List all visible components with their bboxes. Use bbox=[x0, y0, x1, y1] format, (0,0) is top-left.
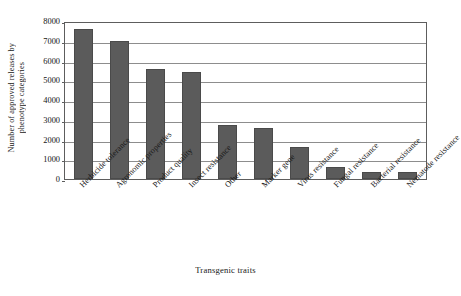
y-axis-title-line-1: Number of approved releases by bbox=[7, 43, 17, 152]
y-axis-tick-label: 2000 bbox=[43, 136, 60, 144]
y-axis-tick-label: 1000 bbox=[43, 156, 60, 164]
plot-area bbox=[64, 22, 427, 180]
y-axis-tick-label: 5000 bbox=[43, 77, 60, 85]
bar bbox=[146, 69, 165, 179]
y-axis-tick-label: 3000 bbox=[43, 117, 60, 125]
x-axis-category-labels: Herbicide toleranceAgronomic propertiesP… bbox=[64, 181, 427, 267]
y-axis-tick-label: 4000 bbox=[43, 97, 60, 105]
y-axis-tick-label: 6000 bbox=[43, 57, 60, 65]
x-axis-title: Transgenic traits bbox=[0, 265, 451, 275]
bar bbox=[74, 29, 93, 179]
y-axis-tick-labels: 010002000300040005000600070008000 bbox=[30, 0, 63, 296]
y-axis-tick-label: 0 bbox=[56, 176, 60, 184]
bar-slot bbox=[245, 23, 281, 179]
y-axis-tick-label: 7000 bbox=[43, 38, 60, 46]
bar bbox=[182, 72, 201, 179]
y-axis-tick-label: 8000 bbox=[43, 18, 60, 26]
bar-slot bbox=[65, 23, 101, 179]
y-axis-title: Number of approved releases by phenotype… bbox=[2, 18, 32, 178]
y-axis-title-line-2: phenotype categories bbox=[17, 62, 27, 133]
